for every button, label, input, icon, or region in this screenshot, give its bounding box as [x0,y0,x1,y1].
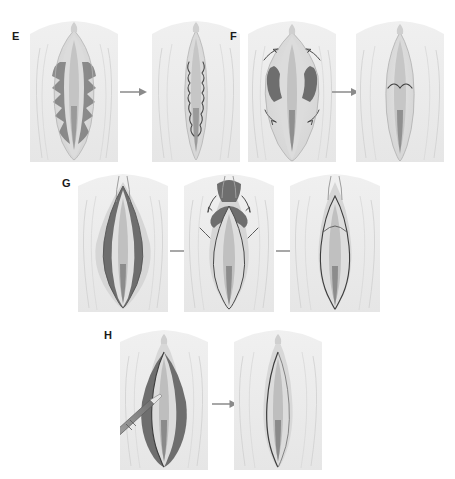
panel-g-step-2-intra-operative-mobilization [184,172,274,312]
surgical-technique-figure: E [0,0,455,479]
panel-f-step-1-pre-operative-marking [248,18,336,162]
panel-h-step-2-post-operative-result [234,328,322,470]
panel-label-h: H [104,330,112,341]
panel-g-step-3-post-operative-result [290,172,380,312]
panel-e-step-1-pre-operative-marking [30,18,118,162]
panel-h-step-1-intra-operative-resection [120,328,208,470]
panel-g-step-1-pre-operative-marking [78,172,168,312]
panel-label-e: E [12,31,20,42]
panel-e-step-2-post-operative-result [152,18,240,162]
panel-f-step-2-post-operative-result [356,18,444,162]
panel-label-g: G [62,178,71,189]
panel-label-f: F [230,31,237,42]
panel-e-step-arrow [120,86,148,98]
